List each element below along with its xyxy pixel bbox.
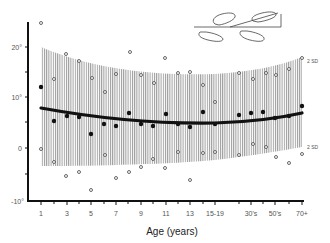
data-point-open xyxy=(115,177,118,180)
x-tick-label-30s: 30's xyxy=(245,210,258,217)
data-point-filled xyxy=(77,115,81,119)
x-tick-label-5: 5 xyxy=(89,210,93,217)
data-point-filled xyxy=(176,122,180,126)
footprint-diagram xyxy=(194,12,281,41)
data-point-open xyxy=(53,161,56,164)
sd-lower-label: 2 SD xyxy=(307,144,319,150)
data-point-filled xyxy=(114,124,118,128)
x-tick-label-70plus: 70+ xyxy=(296,210,308,217)
data-point-filled xyxy=(39,85,43,89)
data-point-open xyxy=(128,171,131,174)
data-point-open xyxy=(40,22,43,25)
data-point-open xyxy=(275,156,278,159)
x-tick-label-9: 9 xyxy=(139,210,143,217)
data-point-open xyxy=(189,179,192,182)
data-point-filled xyxy=(273,116,277,120)
data-point-open xyxy=(152,158,155,161)
data-point-open xyxy=(214,151,217,154)
y-tick-label-20: 20° xyxy=(11,44,22,51)
x-tick-label-11: 11 xyxy=(162,210,169,217)
x-tick-label-3: 3 xyxy=(65,210,69,217)
data-point-open xyxy=(265,72,268,75)
x-tick-label-15-19: 15-19 xyxy=(206,210,224,217)
x-tick-label-13: 13 xyxy=(186,210,194,217)
data-point-filled xyxy=(237,113,241,117)
data-point-open xyxy=(90,189,93,192)
data-point-open xyxy=(164,167,167,170)
data-point-open xyxy=(238,154,241,157)
x-tick-label-7: 7 xyxy=(114,210,118,217)
data-point-open xyxy=(40,148,43,151)
data-point-open xyxy=(265,146,268,149)
x-tick-label-50s: 50's xyxy=(269,210,282,217)
footprint-icon xyxy=(199,32,223,41)
data-point-filled xyxy=(89,132,93,136)
data-point-open xyxy=(301,153,304,156)
x-tick-label-1: 1 xyxy=(39,210,43,217)
data-point-open xyxy=(78,171,81,174)
data-point-open xyxy=(288,68,291,71)
data-point-open xyxy=(301,57,304,60)
data-point-open xyxy=(104,154,107,157)
footprint-icon xyxy=(213,13,235,25)
data-point-open xyxy=(252,143,255,146)
data-point-open xyxy=(177,72,180,75)
footprint-icon xyxy=(240,31,264,41)
data-point-open xyxy=(153,82,156,85)
y-tick-label-10: 10° xyxy=(11,94,22,101)
data-point-open xyxy=(202,84,205,87)
y-tick-label-0: 0 xyxy=(18,145,22,152)
data-point-filled xyxy=(201,110,205,114)
data-point-open xyxy=(115,73,118,76)
data-point-open xyxy=(214,101,217,104)
data-point-filled xyxy=(188,125,192,129)
data-point-filled xyxy=(300,104,304,108)
data-point-open xyxy=(177,151,180,154)
data-point-open xyxy=(129,51,132,54)
x-axis-title: Age (years) xyxy=(146,226,198,237)
data-point-open xyxy=(65,175,68,178)
sd-upper-label: 2 SD xyxy=(307,58,319,64)
data-point-open xyxy=(238,72,241,75)
foot-progression-angle-chart: 20° 10° 0 -10° 1 3 5 7 9 11 13 15-19 30'… xyxy=(0,0,330,243)
data-point-open xyxy=(65,53,68,56)
data-point-open xyxy=(140,74,143,77)
data-point-open xyxy=(275,74,278,77)
data-point-filled xyxy=(213,122,217,126)
data-point-open xyxy=(288,162,291,165)
data-point-filled xyxy=(287,114,291,118)
data-point-filled xyxy=(139,122,143,126)
data-point-filled xyxy=(249,111,253,115)
data-point-filled xyxy=(151,124,155,128)
data-point-filled xyxy=(102,122,106,126)
data-point-filled xyxy=(261,110,265,114)
angle-line xyxy=(230,13,278,27)
data-point-open xyxy=(53,78,56,81)
data-point-filled xyxy=(127,111,131,115)
data-point-filled xyxy=(65,114,69,118)
data-point-open xyxy=(104,91,107,94)
data-point-open xyxy=(189,71,192,74)
data-point-open xyxy=(91,77,94,80)
data-point-filled xyxy=(52,119,56,123)
two-sd-band xyxy=(41,47,302,166)
data-point-open xyxy=(78,60,81,63)
data-point-open xyxy=(202,152,205,155)
data-point-filled xyxy=(164,112,168,116)
y-tick-label-minus10: -10° xyxy=(11,198,24,205)
data-point-open xyxy=(252,78,255,81)
data-point-open xyxy=(140,166,143,169)
data-point-open xyxy=(164,57,167,60)
